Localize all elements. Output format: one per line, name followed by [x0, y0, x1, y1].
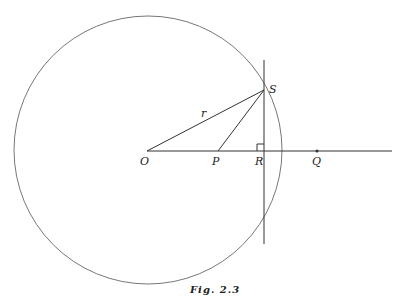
label-P: P	[212, 156, 219, 167]
label-O: O	[140, 156, 149, 167]
figure-caption: Fig. 2.3	[190, 284, 240, 295]
label-R: R	[255, 156, 263, 167]
label-S: S	[269, 84, 277, 95]
segment-PS	[218, 90, 264, 151]
right-angle-marker	[257, 144, 264, 151]
segment-OS	[147, 90, 264, 151]
label-Q: Q	[312, 156, 321, 167]
label-r: r	[201, 108, 206, 119]
point-Q-dot	[316, 150, 319, 153]
geometry-diagram	[0, 0, 399, 302]
